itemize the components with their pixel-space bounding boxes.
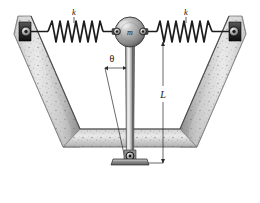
mass-label: m [127, 28, 133, 37]
anchor-right-pin [232, 30, 235, 33]
pendulum-rod-body [126, 44, 135, 160]
pendulum-rod [126, 43, 135, 161]
mass-lug-left-pin [116, 30, 118, 32]
physics-diagram-figure: k k m [0, 0, 260, 203]
mass-lug-left [112, 28, 120, 35]
spring-right-label: k [184, 7, 188, 17]
pivot-hinge-pin [129, 155, 132, 158]
spring-left-label: k [72, 7, 76, 17]
pivot-base-plate [111, 159, 149, 165]
anchor-right [229, 22, 241, 41]
length-label: L [159, 89, 166, 100]
anchor-left-pin [24, 30, 27, 33]
diagram-canvas: k k m [0, 0, 260, 203]
anchor-left [19, 22, 31, 41]
angle-label: θ [110, 53, 115, 64]
mass-lug-right-pin [142, 30, 144, 32]
